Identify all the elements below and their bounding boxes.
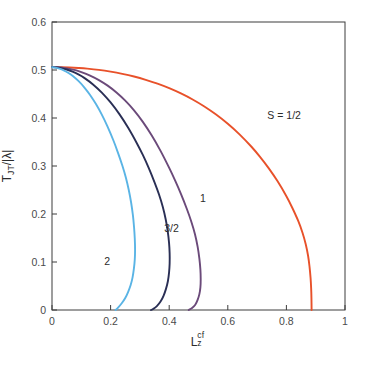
curve-annotation-1: 1	[200, 192, 206, 204]
plot-canvas	[0, 0, 365, 366]
plot-frame	[52, 22, 345, 310]
curve-annotation-0: S = 1/2	[267, 109, 301, 121]
x-axis-label: Lcfz	[191, 334, 207, 349]
curve-annotation-2: 3/2	[164, 222, 179, 234]
y-tick-label: 0	[18, 304, 46, 316]
y-tick-label: 0.5	[18, 64, 46, 76]
chart-figure: 00.20.40.60.8100.10.20.30.40.50.6 S = 1/…	[0, 0, 365, 366]
y-tick-label: 0.1	[18, 256, 46, 268]
y-tick-label: 0.4	[18, 112, 46, 124]
x-tick-label: 0	[49, 315, 55, 327]
y-axis-label: TJT/|λ|	[0, 150, 15, 183]
x-tick-label: 0.4	[162, 315, 177, 327]
y-axis-label-denom: /|λ|	[0, 150, 14, 166]
y-tick-label: 0.2	[18, 208, 46, 220]
y-axis-label-sub: JT	[6, 165, 16, 175]
axes-frame	[52, 22, 345, 310]
y-tick-label: 0.3	[18, 160, 46, 172]
x-tick-label: 0.2	[103, 315, 118, 327]
x-axis-label-sub: z	[197, 338, 201, 348]
x-tick-label: 0.8	[279, 315, 294, 327]
x-axis-label-base: L	[191, 335, 198, 349]
x-tick-label: 0.6	[220, 315, 235, 327]
x-axis-label-script: cfz	[197, 334, 206, 346]
curve-annotation-3: 2	[104, 255, 110, 267]
y-axis-label-base: T	[0, 175, 14, 182]
x-tick-label: 1	[342, 315, 348, 327]
y-tick-label: 0.6	[18, 16, 46, 28]
